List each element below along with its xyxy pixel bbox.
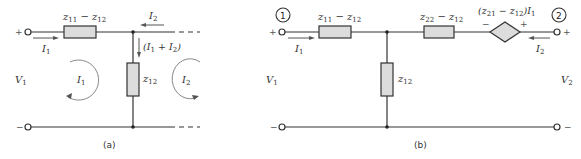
minus-sign-b-port2: − [564,122,572,132]
plus-sign-b-port1: + [269,27,277,37]
counterclockwise-arrow-icon [192,95,199,100]
source-plus-sign: + [520,19,528,29]
output-current-label-b: I2 [535,43,544,56]
junction-node-a-bottom [131,125,135,129]
shunt-impedance-label-a: z12 [142,73,157,86]
caption-b: (b) [414,140,427,150]
port1-number: 1 [280,11,286,21]
caption-a: (a) [103,140,116,150]
plus-sign-b-port2: + [563,27,571,37]
junction-node-b-bottom [385,125,389,129]
series1-label-b: z11 − z12 [317,11,361,24]
port2-current-label-a: I2 [148,10,157,23]
source-minus-sign: − [482,19,490,29]
arrow-left-icon [528,36,534,40]
two-port-equivalent-circuits: + − z11 − z12 I1 I2 (I1 + I2) z12 V1 I1 … [0,0,581,159]
junction-node-b-top [385,30,389,34]
arrow-left-icon [140,23,146,27]
arrow-right-icon [53,36,59,40]
output-voltage-label-b: V2 [561,74,573,87]
terminal-b-port2-minus [554,124,560,130]
mesh2-label: I2 [181,74,190,87]
shunt-impedance-z12-a [127,63,139,96]
arrow-down-icon [137,52,141,58]
series2-label-b: z22 − z12 [419,11,463,24]
port2-number: 2 [556,11,562,21]
series-impedance-z11-z12-b [319,26,351,38]
minus-sign-b-port1: − [270,122,278,132]
terminal-b-port2-plus [554,29,560,35]
series-impedance-z22-z12-b [424,26,454,38]
shunt-impedance-label-b: z12 [397,73,412,86]
junction-node-a-top [131,30,135,34]
input-voltage-label-a: V1 [15,74,27,87]
terminal-b-port1-minus [279,124,285,130]
dependent-voltage-source [490,22,520,42]
terminal-b-port1-plus [279,29,285,35]
shunt-impedance-z12-b [381,63,393,96]
panel-b: + − + − 1 2 z11 − z12 z22 − z12 (z21 − z… [266,5,573,150]
input-voltage-label-b: V1 [266,74,278,87]
series-impedance-z11-z12-a [64,26,96,38]
panel-a: + − z11 − z12 I1 I2 (I1 + I2) z12 V1 I1 … [15,10,200,150]
input-current-label-a: I1 [41,43,50,56]
terminal-a-minus [25,124,31,130]
series-impedance-label-a: z11 − z12 [62,11,106,24]
arrow-right-icon [309,36,315,40]
terminal-a-plus [25,29,31,35]
mesh1-label: I1 [76,74,85,87]
minus-sign-a: − [16,122,24,132]
shunt-current-label-a: (I1 + I2) [143,41,181,54]
input-current-label-b: I1 [294,43,303,56]
dependent-source-label: (z21 − z12)I1 [478,5,536,18]
plus-sign-a: + [15,27,23,37]
